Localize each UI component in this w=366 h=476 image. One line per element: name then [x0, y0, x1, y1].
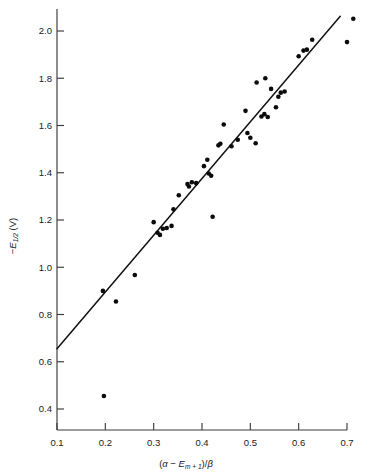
y-tick-label: 1.6 [39, 120, 52, 131]
data-point [345, 40, 350, 45]
data-point [101, 289, 106, 294]
data-point [221, 122, 226, 127]
data-point [263, 76, 268, 81]
x-tick-group: 0.10.20.30.40.50.60.7 [50, 423, 353, 448]
x-tick-label: 0.6 [292, 437, 305, 448]
data-point [218, 141, 223, 146]
x-tick-label: 0.5 [244, 437, 257, 448]
data-point [248, 135, 253, 140]
y-title-E-subscript: 1/2 [12, 233, 19, 242]
x-axis: 0.10.20.30.40.50.60.7 [50, 423, 353, 448]
regression-line-group [57, 16, 340, 348]
data-point [202, 164, 207, 169]
y-tick-label: 1.0 [39, 262, 52, 273]
x-tick-label: 0.2 [99, 437, 112, 448]
plot-canvas: 0.40.60.81.01.21.41.61.82.0 0.10.20.30.4… [0, 0, 366, 476]
y-axis: 0.40.60.81.01.21.41.61.82.0 [39, 9, 64, 430]
x-tick-label: 0.7 [340, 437, 353, 448]
data-point [243, 109, 248, 114]
data-point [245, 131, 250, 136]
data-point [274, 105, 279, 110]
data-point [177, 193, 182, 198]
y-title-unit: (V) [7, 218, 18, 233]
data-point [210, 214, 215, 219]
y-tick-label: 1.4 [39, 167, 52, 178]
data-point [265, 115, 270, 120]
y-tick-label: 2.0 [39, 25, 52, 36]
y-axis-title: −E1/2 (V) [7, 218, 19, 254]
x-tick-label: 0.4 [195, 437, 208, 448]
data-point [102, 394, 107, 399]
data-point [151, 220, 156, 225]
data-point [133, 273, 138, 278]
y-tick-label: 1.8 [39, 73, 52, 84]
x-tick-label: 0.3 [147, 437, 160, 448]
data-point [114, 299, 119, 304]
data-point [187, 184, 192, 189]
data-point [235, 137, 240, 142]
data-point [229, 144, 234, 149]
data-point [194, 181, 199, 186]
y-tick-label: 1.2 [39, 214, 52, 225]
data-point [305, 47, 310, 52]
x-tick-label: 0.1 [50, 437, 63, 448]
data-point [269, 87, 274, 92]
data-point [158, 233, 163, 238]
x-title-beta: β [206, 458, 213, 469]
data-point [282, 89, 287, 94]
data-point [310, 37, 315, 42]
y-tick-label: 0.4 [39, 403, 52, 414]
data-point [161, 226, 166, 231]
regression-line [57, 16, 340, 348]
x-title-E-subscript: m + 1 [185, 463, 202, 470]
scatter-plot-figure: 0.40.60.81.01.21.41.61.82.0 0.10.20.30.4… [0, 0, 366, 476]
data-point [276, 94, 281, 99]
svg-text:−E1/2 (V): −E1/2 (V) [7, 218, 19, 254]
x-axis-title: (α − Em + 1)/β [159, 458, 213, 470]
data-point [164, 226, 169, 231]
svg-text:(α − Em + 1)/β: (α − Em + 1)/β [159, 458, 213, 470]
y-tick-group: 0.40.60.81.01.21.41.61.82.0 [39, 25, 64, 414]
y-tick-label: 0.8 [39, 309, 52, 320]
data-point-group [101, 16, 356, 398]
data-point [190, 180, 195, 185]
data-point [205, 157, 210, 162]
y-tick-label: 0.6 [39, 356, 52, 367]
x-title-minus: − [168, 458, 179, 469]
data-point [253, 141, 258, 146]
data-point [254, 80, 259, 85]
data-point [296, 54, 301, 59]
data-point [171, 207, 176, 212]
data-point [209, 174, 214, 179]
data-point [351, 16, 356, 21]
data-point [169, 224, 174, 229]
